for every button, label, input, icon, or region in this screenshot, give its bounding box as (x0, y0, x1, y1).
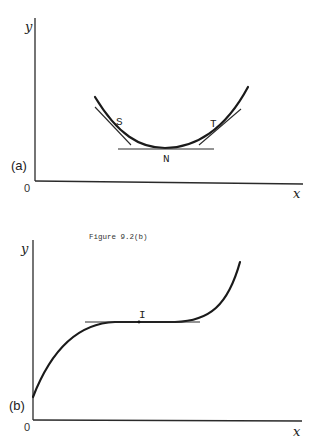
point-i-marker (138, 321, 141, 324)
panel-b-curve (33, 262, 240, 397)
point-i-label: I (139, 309, 146, 321)
figure-caption: Figure 9.2(b) (89, 233, 148, 241)
panel-b-origin-label: 0 (24, 421, 30, 433)
tangent-at-t (199, 109, 241, 145)
point-s-label: S (116, 116, 123, 128)
panel-a-label: (a) (11, 158, 27, 173)
panel-b-x-label: x (293, 424, 301, 439)
tangent-at-s (95, 107, 131, 145)
panel-a-y-label: y (24, 19, 33, 34)
figure-canvas: y x 0 (a) S T N Figure 9.2(b) y x 0 (b) … (0, 0, 316, 442)
panel-b-x-axis (33, 420, 302, 421)
panel-b-label: (b) (9, 398, 25, 413)
point-n-label: N (163, 153, 170, 165)
panel-a: y x 0 (a) S T N (11, 18, 303, 201)
panel-a-x-axis (35, 181, 303, 184)
panel-b: Figure 9.2(b) y x 0 (b) I (9, 233, 302, 439)
panel-a-origin-label: 0 (24, 182, 30, 194)
panel-a-x-label: x (293, 186, 301, 201)
panel-b-y-label: y (20, 241, 29, 256)
point-t-label: T (210, 118, 217, 130)
